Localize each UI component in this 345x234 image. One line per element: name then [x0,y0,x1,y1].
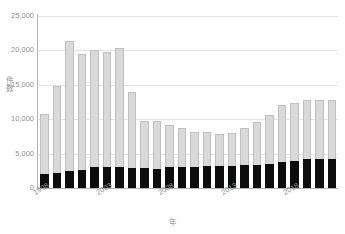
bar-stack[interactable] [328,100,337,188]
bar-segment-upper[interactable] [90,50,99,168]
bar-column[interactable] [176,16,189,188]
bar-stack[interactable] [115,48,124,188]
bar-column[interactable] [76,16,89,188]
bar-segment-upper[interactable] [253,122,262,165]
bar-segment-lower[interactable] [278,162,287,188]
bar-segment-upper[interactable] [190,132,199,167]
bar-column[interactable] [301,16,314,188]
bar-segment-lower[interactable] [140,168,149,188]
bar-stack[interactable] [90,50,99,188]
bar-segment-lower[interactable] [203,166,212,188]
bar-stack[interactable] [153,121,162,188]
bar-segment-lower[interactable] [253,165,262,188]
bar-segment-lower[interactable] [265,164,274,188]
bar-chart: 05,00010,00015,00020,00025,000 件数 199820… [0,0,345,234]
bar-segment-lower[interactable] [78,170,87,188]
bar-stack[interactable] [290,103,299,188]
bar-segment-lower[interactable] [65,171,74,188]
bar-column[interactable] [101,16,114,188]
bar-stack[interactable] [178,128,187,188]
bar-segment-upper[interactable] [265,115,274,164]
bar-stack[interactable] [215,134,224,188]
bar-stack[interactable] [78,54,87,188]
bar-segment-lower[interactable] [315,159,324,188]
bar-segment-upper[interactable] [53,86,62,173]
bar-segment-lower[interactable] [240,165,249,188]
bar-column[interactable] [63,16,76,188]
y-axis-tick-label: 25,000 [0,12,34,20]
bar-column[interactable] [151,16,164,188]
bar-segment-upper[interactable] [290,103,299,161]
bar-column[interactable] [201,16,214,188]
bar-stack[interactable] [40,114,49,188]
x-axis-tick-labels: 19982003200820132018 [38,190,338,220]
bar-stack[interactable] [278,105,287,188]
bar-segment-upper[interactable] [78,54,87,170]
bar-segment-upper[interactable] [140,121,149,169]
bar-segment-upper[interactable] [65,41,74,170]
bar-segment-lower[interactable] [153,169,162,188]
bar-segment-lower[interactable] [178,167,187,188]
bar-stack[interactable] [165,125,174,188]
bar-segment-lower[interactable] [303,159,312,188]
bar-segment-lower[interactable] [53,173,62,188]
bar-column[interactable] [276,16,289,188]
bar-segment-upper[interactable] [278,105,287,162]
y-axis-tick-label: 5,000 [0,150,34,158]
y-axis-tick-label: 0 [0,184,34,192]
bar-stack[interactable] [253,122,262,188]
bar-column[interactable] [226,16,239,188]
bar-column[interactable] [38,16,51,188]
bar-stack[interactable] [240,128,249,188]
bar-stack[interactable] [53,86,62,188]
bar-column[interactable] [326,16,339,188]
bar-segment-upper[interactable] [328,100,337,159]
bar-column[interactable] [288,16,301,188]
bar-stack[interactable] [128,92,137,188]
y-axis-tick-labels: 05,00010,00015,00020,00025,000 [0,0,34,234]
bar-segment-upper[interactable] [165,125,174,167]
bar-segment-upper[interactable] [228,133,237,166]
bar-stack[interactable] [315,100,324,188]
bar-segment-upper[interactable] [303,100,312,159]
bar-column[interactable] [238,16,251,188]
bar-segment-lower[interactable] [190,167,199,188]
x-axis-title: 年 [0,219,345,227]
bar-column[interactable] [313,16,326,188]
bar-segment-upper[interactable] [315,100,324,159]
bar-column[interactable] [51,16,64,188]
bar-segment-upper[interactable] [40,114,49,175]
bar-segment-upper[interactable] [240,128,249,165]
bar-column[interactable] [163,16,176,188]
bar-column[interactable] [213,16,226,188]
bar-stack[interactable] [140,121,149,188]
bar-column[interactable] [138,16,151,188]
bar-column[interactable] [263,16,276,188]
bar-segment-upper[interactable] [103,52,112,167]
bar-segment-upper[interactable] [178,128,187,167]
bar-segment-upper[interactable] [215,134,224,166]
bar-stack[interactable] [303,100,312,188]
bar-segment-lower[interactable] [128,168,137,188]
bar-segment-lower[interactable] [90,167,99,188]
bar-column[interactable] [188,16,201,188]
bar-column[interactable] [126,16,139,188]
bar-column[interactable] [251,16,264,188]
bar-segment-upper[interactable] [128,92,137,168]
bar-stack[interactable] [265,115,274,188]
bar-segment-upper[interactable] [115,48,124,167]
bar-stack[interactable] [190,132,199,188]
bar-stack[interactable] [103,52,112,188]
bar-column[interactable] [88,16,101,188]
bar-segment-lower[interactable] [328,159,337,188]
bar-segment-lower[interactable] [115,167,124,188]
bar-segment-upper[interactable] [203,132,212,166]
bar-segment-upper[interactable] [153,121,162,169]
bar-stack[interactable] [65,41,74,188]
bar-column[interactable] [113,16,126,188]
x-axis-tick-label: 1998 [32,182,50,197]
bar-segment-lower[interactable] [215,166,224,188]
bar-stack[interactable] [203,132,212,188]
y-axis-tick-label: 10,000 [0,115,34,123]
bar-stack[interactable] [228,133,237,188]
